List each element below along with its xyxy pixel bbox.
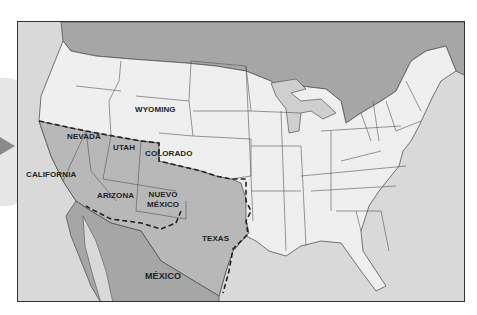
label-mexico: MÉXICO <box>145 271 181 281</box>
label-nevada: NEVADA <box>67 132 101 142</box>
map-svg <box>18 22 465 302</box>
map-frame: WYOMING NEVADA UTAH COLORADO CALIFORNIA … <box>17 21 465 302</box>
label-wyoming: WYOMING <box>135 105 176 115</box>
label-nuevo-mexico-line1: NUEVO <box>147 190 179 200</box>
label-nuevo-mexico-line2: MÉXICO <box>147 200 179 210</box>
label-california: CALIFORNIA <box>26 170 76 180</box>
label-nuevo-mexico: NUEVO MÉXICO <box>147 190 179 210</box>
label-utah: UTAH <box>113 143 135 153</box>
label-colorado: COLORADO <box>145 149 192 159</box>
expand-arrow-icon[interactable] <box>0 137 15 155</box>
label-texas: TEXAS <box>202 234 229 244</box>
label-arizona: ARIZONA <box>97 191 134 201</box>
